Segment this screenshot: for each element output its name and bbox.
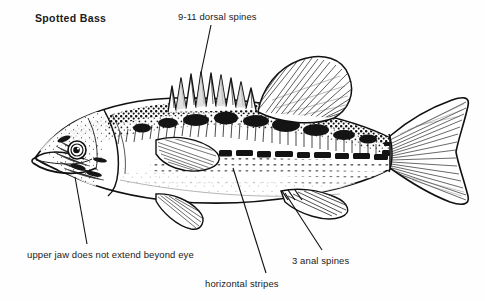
anal-fin — [281, 189, 350, 219]
label-horizontal-stripes: horizontal stripes — [205, 279, 279, 289]
illustration-page: Spotted Bass 9-11 dorsal spines upper ja… — [0, 0, 485, 301]
leader-upper-jaw — [75, 177, 87, 244]
soft-dorsal-fin — [258, 57, 354, 124]
eye — [68, 141, 86, 159]
figure-title: Spotted Bass — [35, 13, 106, 24]
label-anal-spines: 3 anal spines — [292, 256, 349, 266]
label-upper-jaw: upper jaw does not extend beyond eye — [27, 250, 194, 260]
label-dorsal-spines: 9-11 dorsal spines — [178, 12, 257, 22]
leader-dorsal-spines — [201, 25, 211, 73]
spiny-dorsal-fin — [168, 72, 256, 112]
caudal-fin — [382, 98, 468, 204]
